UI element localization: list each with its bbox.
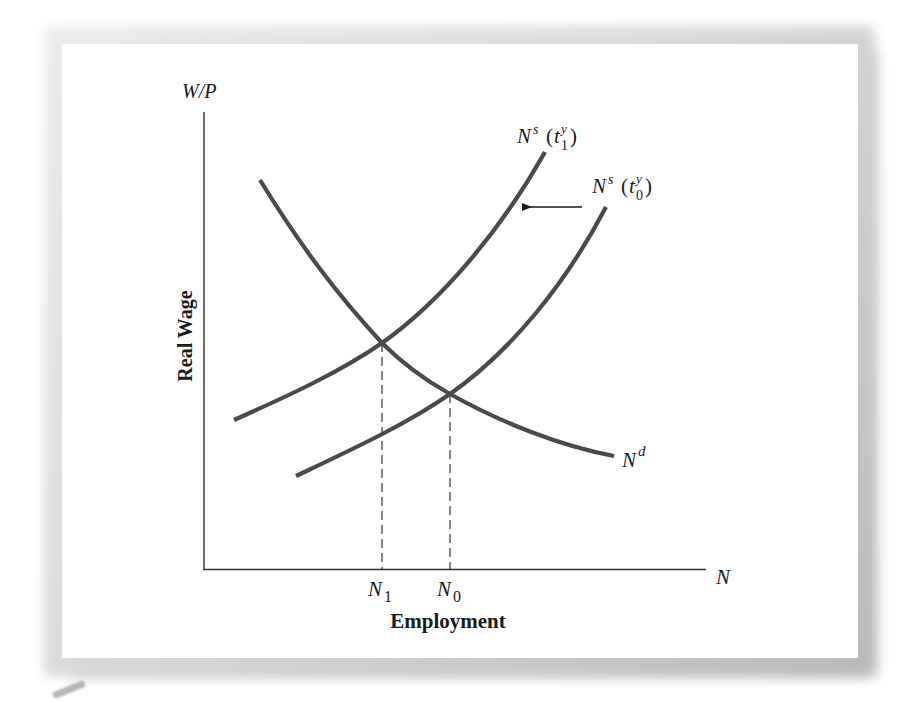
x-axis-symbol: N [715, 565, 731, 589]
svg-text:N: N [436, 577, 452, 601]
svg-text:(: ( [546, 124, 553, 148]
label-labor-demand: N d [621, 443, 646, 472]
svg-text:0: 0 [636, 188, 643, 203]
y-axis-symbol: W/P [182, 80, 216, 102]
y-axis-label: Real Wage [174, 290, 197, 381]
x-tick-n1: N 1 [367, 577, 392, 605]
svg-text:t: t [554, 124, 561, 148]
curves [234, 152, 614, 476]
svg-text:1: 1 [384, 588, 392, 605]
svg-text:s: s [533, 122, 539, 137]
svg-text:N: N [516, 124, 532, 148]
svg-text:d: d [638, 443, 646, 459]
label-labor-supply-t0: N s ( t y 0 ) [591, 171, 652, 203]
x-axis-label: Employment [390, 609, 506, 633]
label-labor-supply-t1: N s ( t y 1 ) [516, 121, 577, 153]
labor-market-chart: W/P N Real Wage Employment N 1 N 0 N s (… [0, 0, 920, 702]
curve-labor-supply-t0 [296, 207, 606, 476]
svg-text:N: N [621, 448, 637, 472]
svg-text:0: 0 [453, 588, 461, 605]
x-tick-n0: N 0 [436, 577, 461, 605]
curve-labor-supply-t1 [234, 152, 545, 420]
svg-text:y: y [634, 171, 642, 186]
svg-text:1: 1 [561, 138, 568, 153]
svg-text:t: t [629, 174, 636, 198]
svg-text:s: s [608, 172, 614, 187]
curve-labor-demand [260, 180, 614, 456]
svg-text:): ) [570, 124, 577, 148]
svg-text:N: N [367, 577, 383, 601]
svg-text:N: N [591, 174, 607, 198]
svg-text:y: y [559, 121, 567, 136]
svg-text:): ) [645, 174, 652, 198]
svg-text:(: ( [621, 174, 628, 198]
dashed-drop-lines [382, 343, 450, 569]
